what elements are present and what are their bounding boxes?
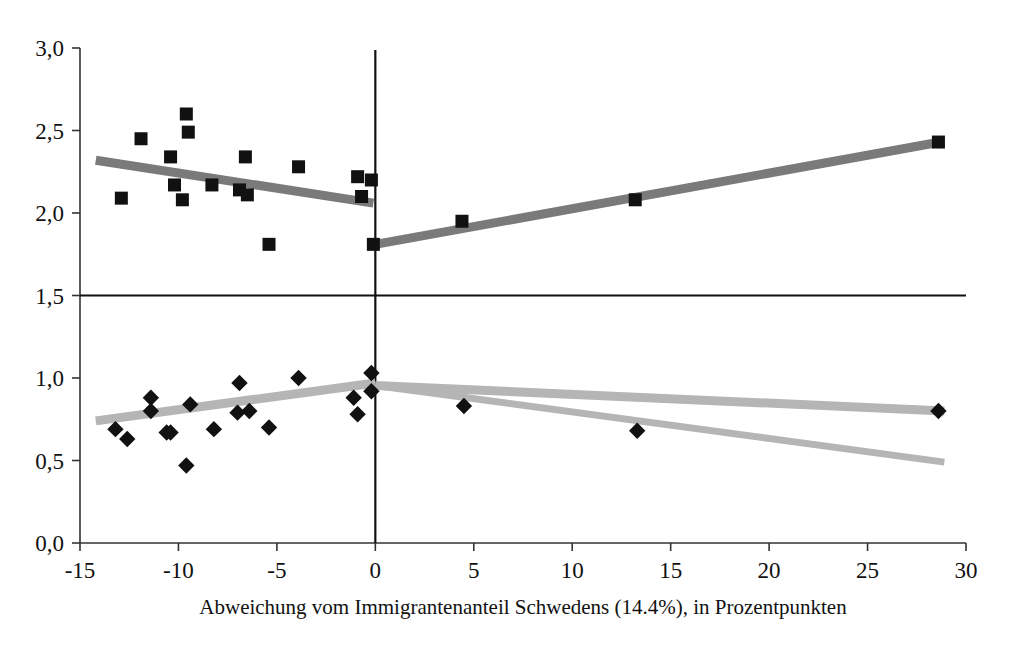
data-point-square-7 bbox=[205, 178, 218, 191]
scatter-plot-svg: 0,00,51,01,52,02,53,0-15-10-505101520253… bbox=[0, 0, 1010, 651]
data-point-square-6 bbox=[176, 193, 189, 206]
y-tick-label-6: 3,0 bbox=[35, 36, 64, 61]
data-point-square-16 bbox=[367, 238, 380, 251]
data-point-square-10 bbox=[241, 188, 254, 201]
x-tick-label-2: -5 bbox=[267, 558, 286, 583]
x-tick-label-6: 15 bbox=[659, 558, 682, 583]
data-point-square-15 bbox=[355, 190, 368, 203]
data-point-square-4 bbox=[182, 126, 195, 139]
y-tick-label-1: 0,5 bbox=[35, 449, 64, 474]
data-point-square-2 bbox=[164, 150, 177, 163]
x-tick-label-5: 10 bbox=[561, 558, 584, 583]
y-tick-label-2: 1,0 bbox=[35, 366, 64, 391]
x-tick-label-7: 20 bbox=[758, 558, 781, 583]
data-point-square-12 bbox=[292, 160, 305, 173]
x-tick-label-1: -10 bbox=[163, 558, 194, 583]
data-point-square-18 bbox=[629, 193, 642, 206]
x-tick-label-9: 30 bbox=[955, 558, 978, 583]
data-point-square-13 bbox=[351, 170, 364, 183]
x-tick-label-4: 5 bbox=[468, 558, 480, 583]
y-tick-label-0: 0,0 bbox=[35, 531, 64, 556]
data-point-square-11 bbox=[263, 238, 276, 251]
x-axis-caption: Abweichung vom Immigrantenanteil Schwede… bbox=[199, 595, 847, 619]
y-tick-label-5: 2,5 bbox=[35, 119, 64, 144]
y-tick-label-4: 2,0 bbox=[35, 201, 64, 226]
data-point-square-3 bbox=[180, 108, 193, 121]
plot-background bbox=[0, 0, 1010, 651]
y-tick-label-3: 1,5 bbox=[35, 284, 64, 309]
x-tick-label-8: 25 bbox=[856, 558, 879, 583]
x-tick-label-3: 0 bbox=[370, 558, 382, 583]
data-point-square-1 bbox=[135, 132, 148, 145]
data-point-square-19 bbox=[932, 136, 945, 149]
data-point-square-17 bbox=[455, 215, 468, 228]
data-point-square-14 bbox=[365, 174, 378, 187]
data-point-square-9 bbox=[239, 150, 252, 163]
axis-caption-layer: Abweichung vom Immigrantenanteil Schwede… bbox=[199, 595, 847, 619]
data-point-square-5 bbox=[168, 178, 181, 191]
chart-container: 0,00,51,01,52,02,53,0-15-10-505101520253… bbox=[0, 0, 1010, 651]
data-point-square-0 bbox=[115, 192, 128, 205]
x-tick-label-0: -15 bbox=[65, 558, 96, 583]
